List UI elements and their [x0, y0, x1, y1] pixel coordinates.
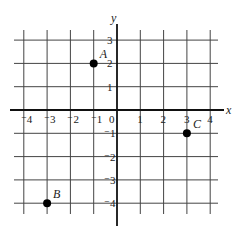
y-tick-label: ⁻3 — [104, 174, 116, 186]
point-label-c: C — [193, 117, 202, 131]
y-tick-label: 2 — [107, 57, 113, 69]
x-tick-label: ⁻2 — [67, 113, 79, 125]
point-b — [43, 199, 51, 207]
point-label-b: B — [53, 187, 61, 201]
point-c — [183, 129, 191, 137]
x-tick-label: ⁻1 — [91, 113, 103, 125]
point-a — [90, 59, 98, 67]
x-tick-label: 3 — [184, 113, 190, 125]
x-tick-label: 0 — [109, 113, 115, 125]
x-axis-label: x — [225, 103, 232, 117]
x-tick-label: 4 — [207, 113, 213, 125]
point-label-a: A — [99, 47, 108, 61]
y-tick-label: 1 — [107, 81, 113, 93]
y-axis-label: y — [110, 11, 117, 25]
x-tick-label: ⁻3 — [44, 113, 56, 125]
coordinate-plane: xy⁻4⁻3⁻2⁻101234321⁻1⁻2⁻3⁻4ABC — [0, 0, 241, 227]
x-tick-label: 1 — [137, 113, 143, 125]
y-tick-label: ⁻1 — [104, 127, 116, 139]
x-tick-label: ⁻4 — [21, 113, 33, 125]
x-tick-label: 2 — [161, 113, 167, 125]
y-tick-label: 3 — [107, 34, 113, 46]
y-tick-label: ⁻4 — [104, 197, 116, 209]
y-tick-label: ⁻2 — [104, 151, 116, 163]
